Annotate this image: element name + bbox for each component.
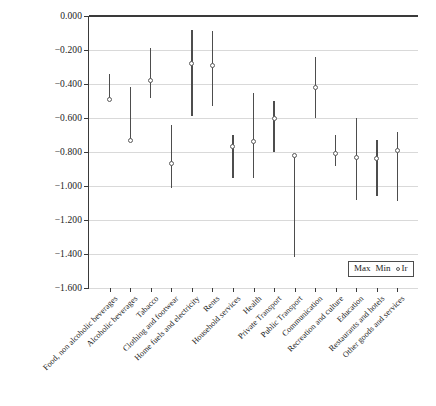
x-tick-mark (110, 288, 111, 292)
x-tick-mark (192, 288, 193, 292)
y-tick-mark (84, 16, 89, 17)
y-tick-mark (84, 186, 89, 187)
range-bar (253, 93, 254, 178)
legend-label-ir: Ir (402, 263, 408, 274)
y-tick-label-wrap: −1.400 (24, 249, 82, 259)
gridline (89, 50, 418, 51)
data-point-marker (107, 97, 112, 102)
x-tick-mark (212, 288, 213, 292)
data-point-marker (230, 144, 235, 149)
range-bar (294, 155, 295, 257)
range-bar (273, 101, 274, 152)
range-bar (130, 87, 131, 140)
y-tick-label-wrap: −0.200 (24, 45, 82, 55)
x-tick-mark (233, 288, 234, 292)
range-bar (376, 140, 377, 196)
gridline (89, 84, 418, 85)
y-tick-label: 0.000 (26, 11, 82, 21)
caption-strip (4, 392, 244, 406)
x-tick-mark (377, 288, 378, 292)
legend-label-max: Max (354, 263, 371, 274)
x-tick-mark (130, 288, 131, 292)
data-point-marker (148, 78, 153, 83)
x-tick-mark (336, 288, 337, 292)
data-point-marker (128, 138, 133, 143)
y-tick-mark (84, 220, 89, 221)
data-point-marker (333, 151, 338, 156)
x-tick-mark (151, 288, 152, 292)
y-tick-label: −0.200 (26, 45, 82, 55)
y-tick-mark (84, 84, 89, 85)
x-tick-mark (274, 288, 275, 292)
legend-entry-min: Min (376, 263, 391, 274)
data-point-marker (313, 85, 318, 90)
x-tick-mark (397, 288, 398, 292)
chart-legend: Max Min Ir (348, 261, 414, 277)
y-tick-label: −0.800 (26, 147, 82, 157)
range-bar (191, 30, 192, 117)
legend-label-min: Min (376, 263, 391, 274)
range-bar (150, 48, 151, 97)
data-point-marker (395, 148, 400, 153)
y-tick-label-wrap: −0.800 (24, 147, 82, 157)
x-tick-mark (254, 288, 255, 292)
circle-marker-icon (396, 267, 400, 271)
y-tick-mark (84, 50, 89, 51)
y-tick-label-wrap: −1.000 (24, 181, 82, 191)
y-tick-mark (84, 152, 89, 153)
y-tick-label: −1.000 (26, 181, 82, 191)
x-tick-mark (356, 288, 357, 292)
gridline (89, 220, 418, 221)
y-tick-mark (84, 118, 89, 119)
gridline (89, 186, 418, 187)
plot-top-border (89, 15, 418, 17)
y-tick-label: −1.600 (26, 283, 82, 293)
data-point-marker (272, 116, 277, 121)
range-bar (212, 31, 213, 106)
range-bar (232, 135, 233, 178)
data-point-marker (292, 153, 297, 158)
data-point-marker (169, 161, 174, 166)
legend-entry-ir: Ir (396, 263, 408, 274)
x-tick-mark (171, 288, 172, 292)
y-tick-label-wrap: −1.200 (24, 215, 82, 225)
x-tick-mark (315, 288, 316, 292)
range-bar (171, 125, 172, 188)
y-tick-mark (84, 288, 89, 289)
y-tick-label-wrap: −1.600 (24, 283, 82, 293)
x-tick-mark (295, 288, 296, 292)
legend-entry-max: Max (354, 263, 371, 274)
x-axis-label: Food, non alcoholic beverages (41, 294, 119, 372)
y-tick-label-wrap: 0.000 (24, 11, 82, 21)
y-tick-label: −1.200 (26, 215, 82, 225)
data-point-marker (354, 155, 359, 160)
data-point-marker (189, 61, 194, 66)
y-tick-mark (84, 254, 89, 255)
y-tick-label: −1.400 (26, 249, 82, 259)
y-tick-label: −0.400 (26, 79, 82, 89)
range-bar (397, 132, 398, 202)
y-tick-label-wrap: −0.600 (24, 113, 82, 123)
data-point-marker (210, 63, 215, 68)
y-tick-label-wrap: −0.400 (24, 79, 82, 89)
data-point-marker (251, 139, 256, 144)
data-point-marker (374, 156, 379, 161)
gridline (89, 254, 418, 255)
y-tick-label: −0.600 (26, 113, 82, 123)
chart-container: 0.000−0.200−0.400−0.600−0.800−1.000−1.20… (0, 0, 436, 406)
